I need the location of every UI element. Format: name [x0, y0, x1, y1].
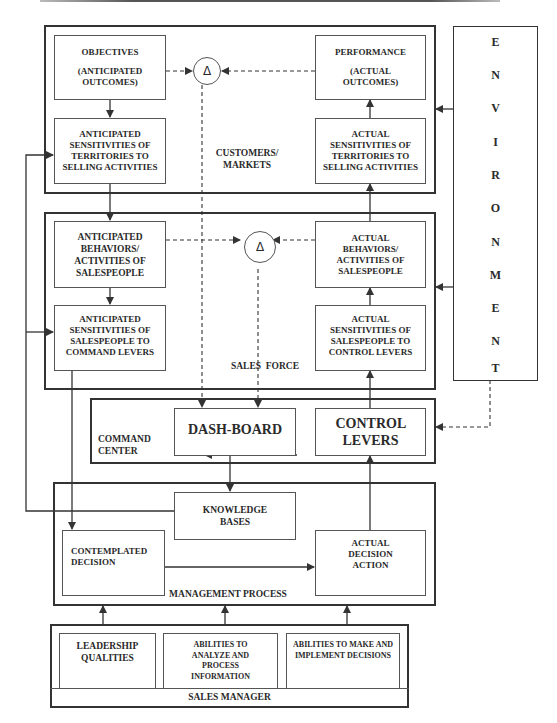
performance-title: PERFORMANCE: [335, 47, 406, 58]
abilities-make-box: ABILITIES TO MAKE AND IMPLEMENT DECISION…: [286, 633, 400, 689]
objectives-subtitle: (ANTICIPATED OUTCOMES): [55, 66, 165, 88]
actual-sensitivities-territories-box: ACTUAL SENSITIVITIES OF TERRITORIES TO S…: [315, 118, 426, 184]
control-levers-box: CONTROL LEVERS: [315, 408, 426, 456]
sales-force-label: SALES FORCE: [215, 360, 315, 372]
customers-markets-label: CUSTOMERS/ MARKETS: [212, 147, 282, 171]
actual-sensitivities-salespeople-box: ACTUAL SENSITIVITIES OF SALESPEOPLE TO C…: [315, 305, 426, 371]
sales-manager-label: SALES MANAGER: [50, 691, 409, 703]
performance-box: PERFORMANCE (ACTUAL OUTCOMES): [315, 35, 426, 100]
page-top-edge: [40, 0, 500, 2]
performance-subtitle: (ACTUAL OUTCOMES): [316, 66, 425, 88]
dashboard-box: DASH-BOARD: [174, 408, 296, 456]
delta-outcomes-comparator: Δ: [193, 57, 221, 85]
delta-behaviors-comparator: Δ: [244, 231, 276, 263]
objectives-title: OBJECTIVES: [81, 47, 138, 58]
knowledge-bases-box: KNOWLEDGE BASES: [174, 492, 296, 540]
actual-behaviors-box: ACTUAL BEHAVIORS/ ACTIVITIES OF SALESPEO…: [315, 221, 426, 288]
command-center-label: COMMAND CENTER: [98, 433, 158, 457]
abilities-analyze-box: ABILITIES TO ANALYZE AND PROCESS INFORMA…: [163, 633, 278, 689]
objectives-box: OBJECTIVES (ANTICIPATED OUTCOMES): [54, 35, 166, 100]
leadership-qualities-box: LEADERSHIP QUALITIES: [59, 633, 156, 689]
contemplated-decision-box: CONTEMPLATED DECISION: [62, 530, 165, 596]
actual-decision-action-box: ACTUAL DECISION ACTION: [315, 530, 426, 596]
sales-manager-divider: [50, 688, 409, 689]
anticipated-sensitivities-salespeople-box: ANTICIPATED SENSITIVITIES OF SALESPEOPLE…: [54, 305, 166, 371]
environment-box: E N V I R O N M E N T: [453, 26, 538, 381]
anticipated-behaviors-box: ANTICIPATED BEHAVIORS/ ACTIVITIES OF SAL…: [54, 221, 166, 288]
anticipated-sensitivities-territories-box: ANTICIPATED SENSITIVITIES OF TERRITORIES…: [54, 118, 166, 184]
management-process-label: MANAGEMENT PROCESS: [163, 588, 293, 600]
